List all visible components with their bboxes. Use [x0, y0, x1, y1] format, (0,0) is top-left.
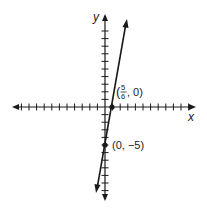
- point-label-x-intercept: ( 5 6 , 0): [116, 83, 143, 101]
- coordinate-plane-chart: y x ( 5 6 , 0) (0, −5): [0, 0, 207, 209]
- point-label-y-intercept: (0, −5): [112, 139, 144, 151]
- point-y-intercept: [102, 142, 107, 147]
- label-fraction-numerator: 5: [121, 83, 125, 92]
- label-fraction-denominator: 6: [121, 92, 125, 101]
- line-upper-arrow-icon: [123, 19, 129, 28]
- line-lower-arrow-icon: [95, 184, 101, 193]
- y-axis-down-arrow-icon: [102, 194, 108, 201]
- x-axis: [12, 104, 196, 111]
- label-rest: , 0): [127, 86, 143, 98]
- x-axis-label: x: [187, 110, 195, 124]
- y-axis-up-arrow-icon: [102, 14, 108, 21]
- point-x-intercept: [109, 104, 114, 109]
- x-axis-left-arrow-icon: [12, 104, 19, 110]
- y-axis-label: y: [92, 10, 100, 24]
